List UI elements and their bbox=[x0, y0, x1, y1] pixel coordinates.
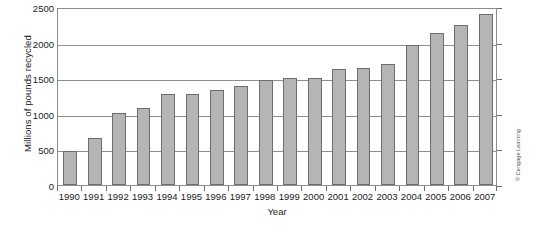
y-axis-tick-label: 1500 bbox=[6, 74, 54, 85]
bar bbox=[186, 94, 200, 185]
y-axis-tick-label: 1000 bbox=[6, 109, 54, 120]
x-axis-tick-label: 2000 bbox=[303, 191, 324, 202]
x-axis-tick-label: 1993 bbox=[132, 191, 153, 202]
plot-area bbox=[57, 8, 497, 186]
x-axis-tick-label: 2003 bbox=[376, 191, 397, 202]
y-axis-tick-labels: 05001000150020002500 bbox=[6, 0, 54, 225]
bar bbox=[283, 78, 297, 185]
y-axis-tick-mark bbox=[497, 8, 502, 9]
y-axis-tick-mark bbox=[497, 150, 502, 151]
bar bbox=[63, 151, 77, 185]
bar bbox=[479, 14, 493, 185]
x-axis-tick-label: 1999 bbox=[279, 191, 300, 202]
bar bbox=[454, 25, 468, 185]
x-axis-tick-label: 2007 bbox=[474, 191, 495, 202]
y-axis-tick-label: 2500 bbox=[6, 3, 54, 14]
x-axis-tick-label: 2006 bbox=[450, 191, 471, 202]
recycling-bar-chart: Millions of pounds recycled 050010001500… bbox=[0, 0, 533, 225]
bar bbox=[406, 45, 420, 185]
x-axis-tick-label: 2005 bbox=[425, 191, 446, 202]
x-axis-tick-label: 2004 bbox=[401, 191, 422, 202]
bar bbox=[234, 86, 248, 185]
x-axis-tick-label: 1996 bbox=[205, 191, 226, 202]
y-axis-tick-label: 0 bbox=[6, 181, 54, 192]
bar bbox=[161, 94, 175, 185]
x-axis-tick-label: 1992 bbox=[108, 191, 129, 202]
x-axis-tick-label: 1991 bbox=[83, 191, 104, 202]
y-axis-tick-mark bbox=[497, 79, 502, 80]
x-axis-tick-label: 1995 bbox=[181, 191, 202, 202]
x-axis-title: Year bbox=[57, 206, 497, 217]
x-axis-tick-label: 1990 bbox=[59, 191, 80, 202]
bar bbox=[308, 78, 322, 186]
bar bbox=[357, 68, 371, 185]
bar bbox=[88, 138, 102, 185]
x-axis-tick-label: 2001 bbox=[328, 191, 349, 202]
y-axis-tick-label: 2000 bbox=[6, 38, 54, 49]
y-axis-tick-mark bbox=[497, 44, 502, 45]
bar-series bbox=[58, 9, 496, 185]
x-axis-tick-label: 1998 bbox=[254, 191, 275, 202]
y-axis-tick-mark bbox=[497, 115, 502, 116]
copyright-credit: © Cengage Learning bbox=[515, 105, 521, 205]
x-axis-tick-label: 1997 bbox=[230, 191, 251, 202]
y-axis-tick-label: 500 bbox=[6, 145, 54, 156]
bar bbox=[137, 108, 151, 185]
bar bbox=[381, 64, 395, 185]
bar bbox=[332, 69, 346, 185]
bar bbox=[210, 90, 224, 185]
y-axis-tick-mark bbox=[497, 186, 502, 187]
y-axis-ticks-right bbox=[497, 8, 503, 186]
x-axis-tick-labels: 1990199119921993199419951996199719981999… bbox=[57, 191, 497, 205]
bar bbox=[259, 80, 273, 185]
x-axis-tick-label: 1994 bbox=[156, 191, 177, 202]
x-axis-tick-label: 2002 bbox=[352, 191, 373, 202]
bar bbox=[112, 113, 126, 185]
bar bbox=[430, 33, 444, 185]
